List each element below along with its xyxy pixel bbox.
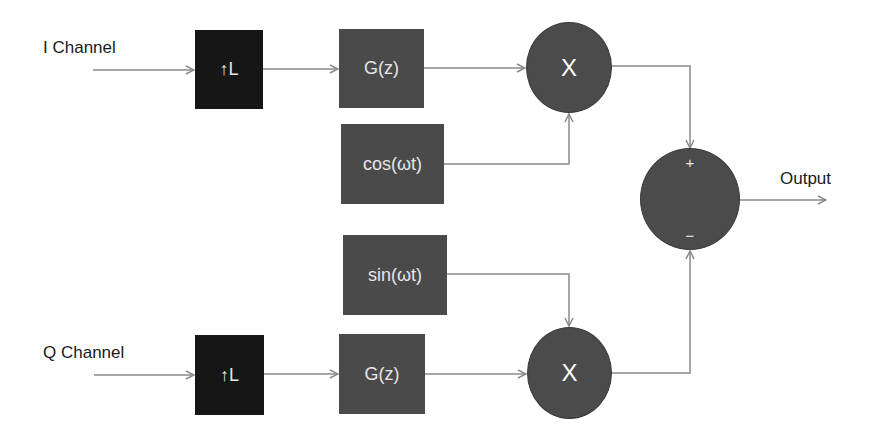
cos-oscillator-block: cos(ωt)	[341, 124, 444, 204]
q-multiplier: X	[527, 327, 612, 419]
summing-junction: + −	[640, 148, 740, 250]
wire-q-mult-to-sum	[612, 251, 690, 373]
plus-sign: +	[686, 154, 695, 171]
q-channel-label: Q Channel	[43, 343, 124, 363]
q-filter-block: G(z)	[339, 334, 425, 414]
signal-wires	[0, 0, 881, 435]
wire-sin-to-mult	[447, 274, 569, 326]
i-multiplier: X	[526, 22, 612, 113]
q-upsampler-block: ↑L	[195, 335, 264, 415]
wire-i-mult-to-sum	[612, 66, 690, 148]
i-channel-label: I Channel	[43, 38, 116, 58]
output-label: Output	[780, 169, 831, 189]
i-filter-block: G(z)	[339, 29, 424, 108]
i-upsampler-block: ↑L	[195, 30, 263, 109]
wire-cos-to-mult	[444, 114, 569, 164]
sin-oscillator-block: sin(ωt)	[343, 235, 447, 315]
minus-sign: −	[686, 227, 695, 244]
